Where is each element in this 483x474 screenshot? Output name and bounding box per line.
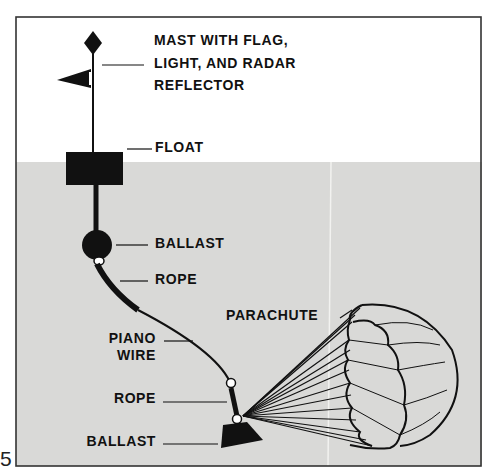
- label-piano-2: WIRE: [117, 347, 156, 363]
- mast: [57, 31, 102, 152]
- sea-anchor-diagram: MAST WITH FLAG, LIGHT, AND RADAR REFLECT…: [0, 0, 483, 474]
- label-ballast-lower: BALLAST: [86, 433, 156, 449]
- flag-icon: [57, 69, 91, 88]
- label-rope-lower: ROPE: [114, 390, 156, 406]
- float: [66, 152, 123, 185]
- label-rope-upper: ROPE: [155, 271, 197, 287]
- label-float: FLOAT: [155, 139, 204, 155]
- light-icon: [89, 72, 92, 85]
- label-mast-1: MAST WITH FLAG,: [154, 32, 288, 48]
- label-parachute: PARACHUTE: [226, 307, 318, 323]
- radar-reflector-icon: [84, 31, 102, 55]
- swivel-lower: [233, 415, 242, 424]
- upper-ballast: [82, 230, 112, 260]
- label-piano-1: PIANO: [109, 330, 156, 346]
- label-mast-2: LIGHT, AND RADAR: [154, 55, 296, 71]
- label-ballast-upper: BALLAST: [155, 235, 225, 251]
- label-mast-3: REFLECTOR: [154, 77, 245, 93]
- swivel-upper: [227, 379, 236, 388]
